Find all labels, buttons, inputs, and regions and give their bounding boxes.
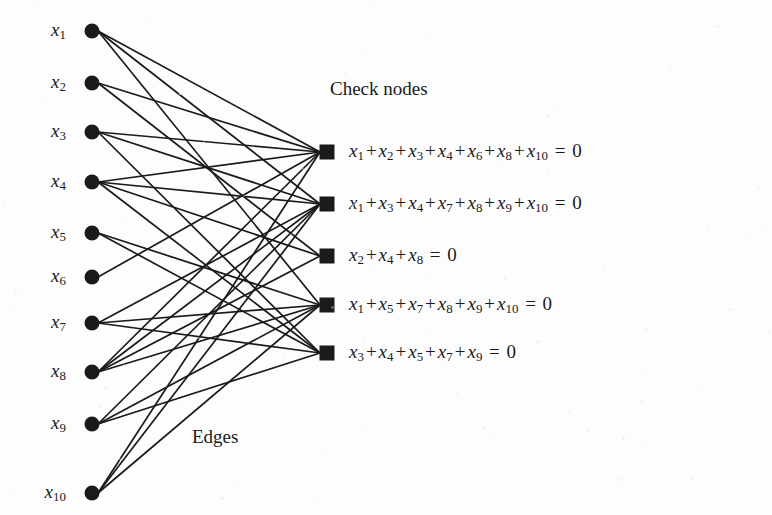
variable-node-x1[interactable]: [85, 24, 100, 39]
variable-node-x2[interactable]: [85, 76, 100, 91]
variable-label-x5: x5: [20, 221, 66, 246]
variable-label-x9: x9: [20, 412, 66, 437]
equation-c4: x1+x5+x7+x8+x9+x10 = 0: [349, 293, 552, 318]
check-node-c5[interactable]: [320, 346, 335, 361]
edge-x1-c1: [98, 31, 320, 152]
variable-node-x3[interactable]: [85, 125, 100, 140]
variable-node-x10[interactable]: [85, 486, 100, 501]
variable-node-x9[interactable]: [85, 417, 100, 432]
equation-c5: x3+x4+x5+x7+x9 = 0: [349, 341, 516, 366]
check-node-c4[interactable]: [320, 298, 335, 313]
variable-label-x3: x3: [20, 120, 66, 145]
check-node-c2[interactable]: [320, 197, 335, 212]
variable-nodes-group: [85, 24, 100, 501]
variable-label-x8: x8: [20, 360, 66, 385]
variable-node-x7[interactable]: [85, 316, 100, 331]
edges-caption: Edges: [192, 426, 238, 448]
variable-node-x5[interactable]: [85, 226, 100, 241]
edge-x10-c4: [98, 305, 320, 493]
variable-label-x4: x4: [20, 170, 66, 195]
check-node-c1[interactable]: [320, 145, 335, 160]
variable-label-x7: x7: [20, 311, 66, 336]
variable-label-x6: x6: [20, 265, 66, 290]
check-nodes-caption: Check nodes: [330, 78, 428, 100]
equation-c2: x1+x3+x4+x7+x8+x9+x10 = 0: [349, 192, 582, 217]
equation-c1: x1+x2+x3+x4+x6+x8+x10 = 0: [349, 140, 582, 165]
variable-node-x8[interactable]: [85, 365, 100, 380]
variable-node-x6[interactable]: [85, 270, 100, 285]
variable-label-x1: x1: [20, 19, 66, 44]
check-node-c3[interactable]: [320, 249, 335, 264]
edge-x5-c4: [98, 233, 320, 305]
equation-c3: x2+x4+x8 = 0: [349, 244, 457, 269]
variable-label-x2: x2: [20, 71, 66, 96]
edge-x6-c1: [98, 152, 320, 277]
tanner-graph-figure: x1x2x3x4x5x6x7x8x9x10 x1+x2+x3+x4+x6+x8+…: [0, 0, 772, 515]
variable-node-x4[interactable]: [85, 175, 100, 190]
edge-x5-c5: [98, 233, 320, 353]
check-nodes-group: [320, 145, 335, 361]
variable-label-x10: x10: [20, 481, 66, 506]
edge-x2-c3: [98, 83, 320, 256]
edges-group: [98, 31, 320, 493]
